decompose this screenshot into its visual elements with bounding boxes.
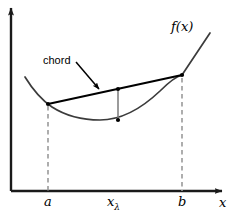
x-axis-label: x [219,196,226,209]
tick-label-b: b [178,195,186,208]
tick-label-x-lambda-subscript: λ [114,202,120,212]
tick-label-a: a [44,195,52,208]
convex-function-chord-figure: f(x) x a xλ b chord [0,0,236,214]
marker-point-a [46,102,50,106]
marker-chord-at-x-lambda [116,87,120,91]
function-label: f(x) [171,20,193,33]
tick-label-x-lambda: xλ [107,195,120,212]
figure-canvas [0,0,236,214]
marker-curve-at-x-lambda [116,118,120,122]
chord-annotation-label: chord [43,55,71,66]
marker-point-b [180,73,184,77]
chord-annotation-arrow [76,62,99,89]
dashed-guides-group [48,78,182,191]
